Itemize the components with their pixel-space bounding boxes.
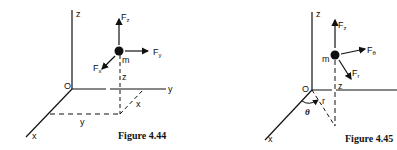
angle-arc: [302, 100, 318, 103]
figure-4-45: z x O Fz Fθ Fr m z r θ Figure 4.45: [265, 9, 397, 144]
force-x-arrow: [102, 56, 115, 69]
force-y-label: Fy: [153, 47, 162, 58]
z-axis-label: z: [76, 9, 81, 19]
origin-label: O: [64, 81, 71, 91]
figure-caption: Figure 4.44: [118, 130, 166, 141]
z-axis-label: z: [316, 9, 321, 19]
radius-label: r: [322, 96, 325, 106]
figure-4-44: z y x O Fz Fy Fx m z y x Figure 4.44: [26, 9, 173, 141]
force-z-label: Fz: [121, 12, 130, 23]
mass-label: m: [322, 54, 330, 64]
force-theta-arrow: [341, 49, 365, 54]
force-theta-label: Fθ: [367, 45, 377, 56]
height-label: z: [338, 81, 343, 91]
y-axis-label: y: [168, 84, 173, 94]
force-r-arrow: [339, 60, 351, 79]
angle-label: θ: [305, 107, 310, 117]
mass-label: m: [122, 55, 130, 65]
projection-y-label: y: [80, 117, 85, 127]
figure-caption: Figure 4.45: [345, 133, 393, 144]
height-label: z: [122, 72, 127, 82]
x-axis-label: x: [268, 134, 273, 144]
origin-label: O: [302, 84, 309, 94]
projection-x-label: x: [136, 99, 141, 109]
force-r-label: Fr: [352, 68, 360, 79]
x-axis-label: x: [32, 131, 37, 141]
force-z-label: Fz: [338, 20, 347, 31]
x-axis: [26, 89, 72, 137]
force-x-label: Fx: [93, 63, 102, 74]
mass-point: [331, 51, 340, 60]
